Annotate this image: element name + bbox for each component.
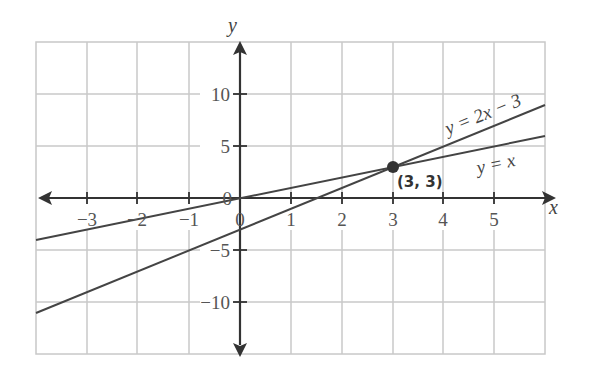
svg-text:10: 10 bbox=[211, 84, 230, 105]
svg-text:0: 0 bbox=[235, 209, 245, 230]
svg-text:−10: −10 bbox=[200, 292, 230, 313]
svg-text:5: 5 bbox=[221, 136, 231, 157]
equation-label-2: y = x bbox=[473, 149, 518, 178]
arrow-down-icon bbox=[233, 343, 247, 357]
svg-text:4: 4 bbox=[438, 209, 448, 230]
svg-text:0: 0 bbox=[223, 188, 233, 209]
coordinate-plane: y x −3 −2 −1 0 1 2 3 4 5 10 5 0 −5 −10 y… bbox=[0, 0, 591, 372]
axes bbox=[48, 52, 545, 345]
intersection-point bbox=[387, 161, 399, 173]
point-label: (3, 3) bbox=[397, 173, 443, 191]
svg-text:−1: −1 bbox=[179, 209, 199, 230]
x-axis-label: x bbox=[548, 196, 558, 218]
svg-text:2: 2 bbox=[337, 209, 347, 230]
svg-text:−5: −5 bbox=[210, 240, 230, 261]
svg-text:1: 1 bbox=[286, 209, 296, 230]
svg-text:5: 5 bbox=[489, 209, 499, 230]
equation-label-1: y = 2x − 3 bbox=[440, 89, 524, 139]
svg-text:−2: −2 bbox=[127, 209, 147, 230]
svg-text:3: 3 bbox=[388, 209, 398, 230]
svg-text:−3: −3 bbox=[77, 209, 97, 230]
y-axis-label: y bbox=[226, 14, 237, 37]
